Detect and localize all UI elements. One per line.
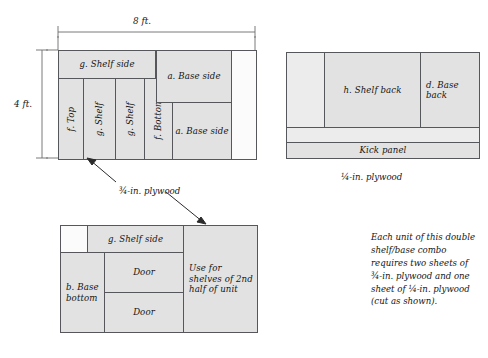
part-label: d. Base back (421, 80, 479, 101)
part-label: a. Base side (173, 126, 230, 136)
part-offcut (231, 50, 257, 160)
part-label: f. Bottom (153, 97, 163, 142)
part-label: Use for shelves of 2nd half of unit (184, 263, 257, 294)
cut-diagram: 8 ft. 4 ft. g. Shelf side f. Top g. Shel… (0, 0, 488, 358)
part-label: a. Base side (165, 71, 222, 81)
part-label: g. Shelf (94, 100, 104, 138)
part-base-back: d. Base back (420, 52, 480, 128)
part-door-1: Door (104, 252, 184, 293)
part-shelf-back: h. Shelf back (324, 52, 421, 128)
part-gap-strip (286, 127, 480, 143)
explanatory-note: Each unit of this double shelf/base comb… (371, 231, 483, 308)
sheet-2-panel: h. Shelf back d. Base back Kick panel (286, 52, 478, 157)
part-shelf-1: g. Shelf (83, 78, 116, 160)
part-label: f. Top (66, 105, 76, 134)
part-top: f. Top (58, 78, 84, 160)
dimension-width-label: 8 ft. (133, 16, 151, 26)
part-shelf-side-b: g. Shelf side (87, 225, 184, 253)
sheet-1-material-label: ¾-in. plywood (119, 185, 180, 198)
part-corner-offcut (60, 225, 88, 253)
part-label: g. Shelf (125, 100, 135, 138)
part-reserved-area: Use for shelves of 2nd half of unit (183, 225, 258, 333)
part-label: g. Shelf side (77, 59, 136, 69)
part-base-side-2: a. Base side (172, 102, 232, 160)
part-kick-panel: Kick panel (286, 142, 480, 159)
part-label: Kick panel (358, 145, 409, 155)
part-label: h. Shelf back (341, 85, 403, 95)
part-label: b. Base bottom (61, 282, 104, 303)
part-label: Door (131, 307, 157, 317)
part-label: Door (131, 267, 157, 277)
part-base-bottom: b. Base bottom (60, 252, 105, 333)
part-shelf-side-a: g. Shelf side (58, 50, 156, 79)
sheet-3-panel: g. Shelf side b. Base bottom Door Door U… (60, 225, 256, 331)
part-door-2: Door (104, 292, 184, 333)
dimension-height-label: 4 ft. (14, 99, 32, 109)
part-base-side-1: a. Base side (156, 50, 232, 103)
part-shelf-2: g. Shelf (115, 78, 145, 160)
sheet-1-panel: g. Shelf side f. Top g. Shelf g. Shelf f… (58, 50, 255, 158)
leader-arrow-sheet-1 (90, 160, 116, 182)
part-label: g. Shelf side (106, 234, 165, 244)
sheet-2-material-label: ¼-in. plywood (341, 171, 402, 184)
